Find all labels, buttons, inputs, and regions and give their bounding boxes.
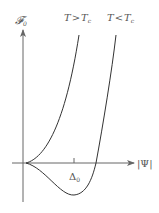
curve-above-critical bbox=[26, 35, 79, 163]
label-below-critical: T<Tc bbox=[107, 12, 135, 24]
free-energy-diagram: 𝓕0 T>Tc T<Tc |Ψ| Δ0 bbox=[0, 0, 159, 213]
x-axis-label: |Ψ| bbox=[137, 158, 153, 170]
label-above-critical: T>Tc bbox=[64, 12, 92, 24]
delta0-label: Δ0 bbox=[69, 171, 80, 183]
y-axis-label: 𝓕0 bbox=[15, 14, 27, 27]
